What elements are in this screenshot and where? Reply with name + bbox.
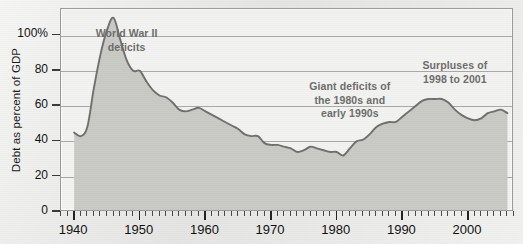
x-minor-tick-1942 xyxy=(86,211,87,216)
x-minor-tick-1984 xyxy=(362,211,363,216)
x-minor-tick-2006 xyxy=(506,211,507,216)
y-tick-60 xyxy=(52,104,60,106)
y-tick-80 xyxy=(52,69,60,71)
x-axis-ticks xyxy=(60,211,513,221)
x-minor-tick-1958 xyxy=(191,211,192,216)
x-major-tick-1940 xyxy=(73,211,75,220)
x-minor-tick-2007 xyxy=(513,211,514,216)
x-major-tick-2000 xyxy=(467,211,469,220)
x-minor-tick-1999 xyxy=(461,211,462,216)
x-major-tick-1980 xyxy=(336,211,338,220)
x-tick-label-1970: 1970 xyxy=(256,222,285,237)
y-tick-40 xyxy=(52,140,60,142)
x-minor-tick-1988 xyxy=(388,211,389,216)
y-tick-label-60: 60 xyxy=(0,97,48,111)
x-major-tick-1990 xyxy=(401,211,403,220)
x-minor-tick-1969 xyxy=(264,211,265,216)
x-minor-tick-1962 xyxy=(218,211,219,216)
x-minor-tick-1975 xyxy=(303,211,304,216)
x-minor-tick-2001 xyxy=(474,211,475,216)
y-tick-label-40: 40 xyxy=(0,132,48,146)
x-minor-tick-1979 xyxy=(329,211,330,216)
x-minor-tick-1993 xyxy=(421,211,422,216)
x-minor-tick-1944 xyxy=(99,211,100,216)
x-minor-tick-1939 xyxy=(67,211,68,216)
x-tick-label-1960: 1960 xyxy=(190,222,219,237)
x-minor-tick-1994 xyxy=(428,211,429,216)
x-minor-tick-1985 xyxy=(369,211,370,216)
x-minor-tick-1989 xyxy=(395,211,396,216)
x-minor-tick-1967 xyxy=(250,211,251,216)
x-tick-label-1940: 1940 xyxy=(59,222,88,237)
x-minor-tick-1953 xyxy=(159,211,160,216)
x-tick-label-1980: 1980 xyxy=(321,222,350,237)
y-tick-label-20: 20 xyxy=(0,168,48,182)
x-minor-tick-1977 xyxy=(316,211,317,216)
x-tick-label-1990: 1990 xyxy=(387,222,416,237)
x-minor-tick-1991 xyxy=(408,211,409,216)
x-minor-tick-1946 xyxy=(113,211,114,216)
x-minor-tick-1964 xyxy=(231,211,232,216)
x-minor-tick-1987 xyxy=(382,211,383,216)
x-minor-tick-1952 xyxy=(152,211,153,216)
y-tick-20 xyxy=(52,175,60,177)
x-minor-tick-1976 xyxy=(310,211,311,216)
x-minor-tick-1974 xyxy=(296,211,297,216)
x-minor-tick-1981 xyxy=(342,211,343,216)
x-minor-tick-1998 xyxy=(454,211,455,216)
x-minor-tick-1971 xyxy=(277,211,278,216)
annotation-1: World War II deficits xyxy=(72,27,182,54)
x-minor-tick-1972 xyxy=(283,211,284,216)
y-tick-100 xyxy=(52,34,60,36)
x-minor-tick-1995 xyxy=(434,211,435,216)
x-minor-tick-1986 xyxy=(375,211,376,216)
y-tick-label-80: 80 xyxy=(0,62,48,76)
x-minor-tick-1992 xyxy=(415,211,416,216)
x-minor-tick-1963 xyxy=(224,211,225,216)
x-minor-tick-1978 xyxy=(323,211,324,216)
x-minor-tick-1997 xyxy=(447,211,448,216)
x-minor-tick-1947 xyxy=(119,211,120,216)
x-minor-tick-1956 xyxy=(178,211,179,216)
annotation-2: Giant deficits of the 1980s and early 19… xyxy=(295,80,405,121)
x-minor-tick-2005 xyxy=(500,211,501,216)
x-minor-tick-1982 xyxy=(349,211,350,216)
x-minor-tick-1966 xyxy=(244,211,245,216)
y-tick-0 xyxy=(52,210,60,212)
x-minor-tick-1945 xyxy=(106,211,107,216)
x-minor-tick-1959 xyxy=(198,211,199,216)
x-minor-tick-2003 xyxy=(487,211,488,216)
x-minor-tick-1948 xyxy=(126,211,127,216)
x-major-tick-1970 xyxy=(270,211,272,220)
x-tick-label-1950: 1950 xyxy=(124,222,153,237)
x-minor-tick-1954 xyxy=(165,211,166,216)
x-minor-tick-2004 xyxy=(493,211,494,216)
x-minor-tick-1965 xyxy=(237,211,238,216)
y-tick-label-0: 0 xyxy=(0,203,48,217)
plot-area: World War II deficitsGiant deficits of t… xyxy=(60,8,513,211)
chart-page: Debt as percent of GDP 020406080100% Wor… xyxy=(0,0,523,244)
x-minor-tick-1961 xyxy=(211,211,212,216)
x-minor-tick-1941 xyxy=(80,211,81,216)
x-major-tick-1950 xyxy=(139,211,141,220)
x-minor-tick-2002 xyxy=(480,211,481,216)
x-minor-tick-1983 xyxy=(355,211,356,216)
x-minor-tick-1957 xyxy=(185,211,186,216)
y-tick-label-100: 100% xyxy=(0,26,48,40)
x-minor-tick-1955 xyxy=(172,211,173,216)
annotation-3: Surpluses of 1998 to 2001 xyxy=(400,59,510,86)
x-tick-label-2000: 2000 xyxy=(453,222,482,237)
x-minor-tick-1938 xyxy=(60,211,61,216)
x-minor-tick-1968 xyxy=(257,211,258,216)
x-minor-tick-1949 xyxy=(132,211,133,216)
x-minor-tick-1943 xyxy=(93,211,94,216)
x-minor-tick-1973 xyxy=(290,211,291,216)
x-minor-tick-1951 xyxy=(145,211,146,216)
x-major-tick-1960 xyxy=(204,211,206,220)
x-minor-tick-1996 xyxy=(441,211,442,216)
